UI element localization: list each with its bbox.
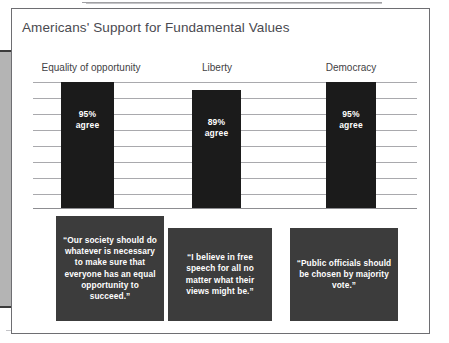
bar-sub-label: agree [205,128,229,139]
quote-text: “I believe in free speech for all no mat… [173,252,267,297]
bar-equality-of-opportunity[interactable]: 95% agree [61,82,114,208]
bar-value-label: 89% [208,117,226,128]
bar-value-label: 95% [342,109,360,120]
bar-value-label: 95% [79,109,97,120]
bar-sub-label: agree [76,120,100,131]
quote-box-liberty[interactable]: “I believe in free speech for all no mat… [168,228,272,321]
bar-liberty[interactable]: 89% agree [192,90,241,208]
quote-box-equality-of-opportunity[interactable]: “Our society should do whatever is neces… [56,216,164,321]
quote-box-democracy[interactable]: “Public officials should be chosen by ma… [290,228,398,321]
page-edge-rule-secondary [86,3,382,4]
figure-title: Americans' Support for Fundamental Value… [22,20,290,35]
bar-sub-label: agree [339,120,363,131]
quote-text: “Public officials should be chosen by ma… [295,258,393,292]
category-label-equality-of-opportunity: Equality of opportunity [42,62,141,73]
bar-democracy[interactable]: 95% agree [326,82,376,208]
quote-text: “Our society should do whatever is neces… [61,235,159,302]
category-label-liberty: Liberty [202,62,232,73]
category-label-democracy: Democracy [326,62,377,73]
plot-area: 95% agree 89% agree 95% agree [33,82,417,208]
